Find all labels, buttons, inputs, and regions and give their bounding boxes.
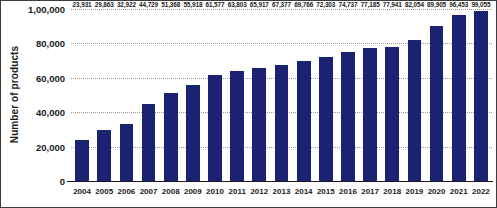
x-tick-label: 2007 <box>137 187 159 205</box>
bar-value-label: 69,766 <box>294 1 313 8</box>
bar-value-label: 29,863 <box>95 1 114 8</box>
bar-slot: 23,931 <box>71 9 93 181</box>
bar[interactable]: 99,055 <box>474 11 488 181</box>
bar-series: 23,93129,86332,92244,72951,36855,91861,5… <box>71 9 492 181</box>
bar-value-label: 89,905 <box>427 1 446 8</box>
x-tick-label: 2005 <box>93 187 115 205</box>
x-tick-label: 2019 <box>403 187 425 205</box>
bar[interactable]: 55,918 <box>186 85 200 181</box>
bar-value-label: 23,931 <box>73 1 92 8</box>
bar[interactable]: 65,917 <box>252 68 266 181</box>
bar[interactable]: 67,377 <box>275 65 289 181</box>
bar-slot: 96,453 <box>448 9 470 181</box>
bar[interactable]: 72,303 <box>319 57 333 181</box>
bar-slot: 72,303 <box>315 9 337 181</box>
bar-value-label: 65,917 <box>250 1 269 8</box>
bar-value-label: 32,922 <box>117 1 136 8</box>
bar-slot: 99,055 <box>470 9 492 181</box>
bar-slot: 77,941 <box>381 9 403 181</box>
bar[interactable]: 82,054 <box>408 40 422 181</box>
x-tick-label: 2008 <box>160 187 182 205</box>
x-tick-label: 2012 <box>248 187 270 205</box>
bar-value-label: 44,729 <box>139 1 158 8</box>
y-tick-label: 1,00,000 <box>21 4 69 15</box>
x-tick-label: 2021 <box>448 187 470 205</box>
plot-area: 23,93129,86332,92244,72951,36855,91861,5… <box>71 9 492 181</box>
x-tick-label: 2022 <box>470 187 492 205</box>
y-tick-label: 80,000 <box>21 38 69 49</box>
bar-value-label: 82,054 <box>405 1 424 8</box>
bar[interactable]: 63,803 <box>230 71 244 181</box>
bar[interactable]: 74,737 <box>341 52 355 181</box>
x-tick-label: 2004 <box>71 187 93 205</box>
x-tick-label: 2016 <box>337 187 359 205</box>
bar-value-label: 61,577 <box>206 1 225 8</box>
x-tick-label: 2015 <box>315 187 337 205</box>
bar-value-label: 55,918 <box>183 1 202 8</box>
x-tick-label: 2017 <box>359 187 381 205</box>
bar[interactable]: 44,729 <box>142 104 156 181</box>
bar-slot: 44,729 <box>137 9 159 181</box>
bar-value-label: 63,803 <box>228 1 247 8</box>
bar[interactable]: 29,863 <box>97 130 111 181</box>
bar-slot: 32,922 <box>115 9 137 181</box>
x-tick-label: 2020 <box>426 187 448 205</box>
x-tick-label: 2010 <box>204 187 226 205</box>
bar-slot: 65,917 <box>248 9 270 181</box>
bar-slot: 77,185 <box>359 9 381 181</box>
y-axis-title-text: Number of products <box>10 45 21 142</box>
x-tick-label: 2018 <box>381 187 403 205</box>
bar-value-label: 67,377 <box>272 1 291 8</box>
bar-slot: 51,368 <box>160 9 182 181</box>
bar[interactable]: 89,905 <box>430 26 444 181</box>
bar-slot: 29,863 <box>93 9 115 181</box>
bar-slot: 55,918 <box>182 9 204 181</box>
x-tick-label: 2006 <box>115 187 137 205</box>
x-tick-label: 2014 <box>293 187 315 205</box>
y-tick-label: 40,000 <box>21 107 69 118</box>
bar-slot: 63,803 <box>226 9 248 181</box>
bar-value-label: 99,055 <box>471 1 490 8</box>
bar[interactable]: 51,368 <box>164 93 178 181</box>
x-axis-tick-labels: 2004200520062007200820092010201120122013… <box>71 187 492 205</box>
bar[interactable]: 23,931 <box>75 140 89 181</box>
y-tick-label: 20,000 <box>21 141 69 152</box>
bar-slot: 82,054 <box>403 9 425 181</box>
bar[interactable]: 32,922 <box>120 124 134 181</box>
bar-value-label: 77,185 <box>361 1 380 8</box>
y-axis-tick-labels: 020,00040,00060,00080,0001,00,000 <box>21 1 69 187</box>
y-tick-label: 60,000 <box>21 72 69 83</box>
x-axis-line <box>67 181 493 182</box>
bar-value-label: 96,453 <box>449 1 468 8</box>
bar-value-label: 72,303 <box>316 1 335 8</box>
bar-slot: 74,737 <box>337 9 359 181</box>
bar-slot: 89,905 <box>426 9 448 181</box>
bar-slot: 61,577 <box>204 9 226 181</box>
x-tick-label: 2013 <box>270 187 292 205</box>
bar-slot: 67,377 <box>270 9 292 181</box>
x-tick-label: 2009 <box>182 187 204 205</box>
bar[interactable]: 77,185 <box>363 48 377 181</box>
bar-slot: 69,766 <box>293 9 315 181</box>
bar[interactable]: 77,941 <box>385 47 399 181</box>
bar-chart-figure: Number of products 020,00040,00060,00080… <box>0 0 497 208</box>
bar[interactable]: 69,766 <box>297 61 311 181</box>
bar[interactable]: 96,453 <box>452 15 466 181</box>
y-tick-label: 0 <box>21 176 69 187</box>
bar-value-label: 77,941 <box>383 1 402 8</box>
x-tick-label: 2011 <box>226 187 248 205</box>
bar[interactable]: 61,577 <box>208 75 222 181</box>
bar-value-label: 74,737 <box>338 1 357 8</box>
bar-value-label: 51,368 <box>161 1 180 8</box>
